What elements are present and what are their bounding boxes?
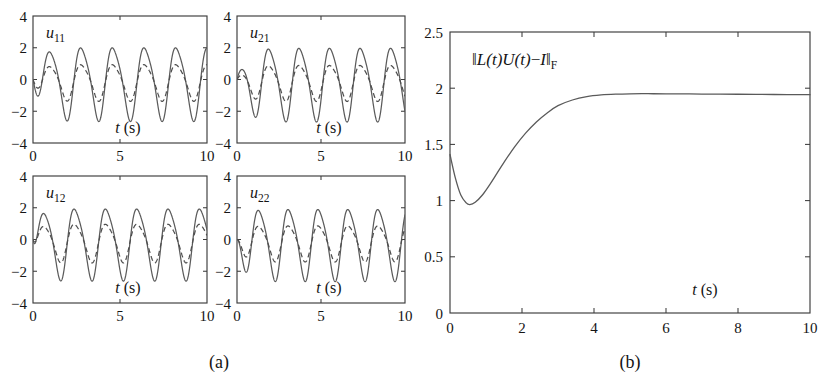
x-tick-label: 0 bbox=[29, 308, 37, 324]
x-tick-label: 8 bbox=[734, 320, 742, 336]
y-tick-label: 1 bbox=[436, 193, 444, 209]
subplot-label-base: u bbox=[46, 184, 54, 201]
norm-part-1: L bbox=[476, 50, 486, 69]
y-tick-label: 0 bbox=[224, 232, 232, 248]
subplot-label-base: u bbox=[250, 184, 258, 201]
subplot-label-subscript: 21 bbox=[258, 32, 270, 44]
norm-part-4: (t) bbox=[515, 50, 531, 69]
series-solid bbox=[237, 210, 405, 282]
subplot-u11: 0510−4−2024u11t (s) bbox=[11, 9, 214, 165]
x-axis-label: t (s) bbox=[115, 279, 140, 297]
y-tick-label: 2 bbox=[224, 40, 232, 56]
curves bbox=[237, 210, 405, 282]
x-tick-label: 0 bbox=[29, 148, 37, 164]
y-tick-label: 2 bbox=[224, 200, 232, 216]
curves bbox=[237, 48, 405, 122]
y-tick-label: 0 bbox=[436, 306, 444, 322]
subplot-u12: 0510−4−2024u12t (s) bbox=[11, 169, 214, 325]
x-tick-label: 10 bbox=[200, 308, 215, 324]
y-tick-label: 2.5 bbox=[424, 25, 443, 41]
y-tick-label: −2 bbox=[215, 104, 231, 120]
figure-svg: 0510−4−2024u11t (s)0510−4−2024u21t (s)05… bbox=[0, 0, 822, 375]
y-tick-label: 2 bbox=[436, 81, 444, 97]
series-dashed bbox=[237, 226, 405, 262]
norm-frobenius-subscript: F bbox=[551, 59, 557, 71]
x-axis-label: t (s) bbox=[316, 279, 341, 297]
subplot-label-u22: u22 bbox=[250, 184, 270, 204]
x-axis-unit: (s) bbox=[697, 281, 718, 299]
x-tick-label: 6 bbox=[662, 320, 670, 336]
subplot-label-u21: u21 bbox=[250, 24, 270, 44]
x-tick-label: 4 bbox=[590, 320, 598, 336]
y-tick-label: 4 bbox=[20, 9, 28, 25]
x-axis-unit: (s) bbox=[120, 119, 141, 137]
y-tick-label: 0 bbox=[20, 232, 28, 248]
y-tick-label: 0 bbox=[20, 72, 28, 88]
curves bbox=[33, 48, 207, 122]
y-tick-label: −4 bbox=[215, 296, 231, 312]
subplot-u21: 0510−4−2024u21t (s) bbox=[215, 9, 412, 165]
y-tick-label: −2 bbox=[11, 264, 27, 280]
series-residual-norm bbox=[450, 94, 810, 205]
subplot-label-base: u bbox=[250, 24, 258, 41]
x-tick-label: 10 bbox=[200, 148, 215, 164]
y-tick-label: 1.5 bbox=[424, 137, 443, 153]
y-tick-label: −4 bbox=[11, 296, 27, 312]
y-tick-label: −2 bbox=[11, 104, 27, 120]
curves bbox=[33, 209, 207, 281]
subplot-label-subscript: 11 bbox=[54, 32, 65, 44]
y-tick-label: 0 bbox=[224, 72, 232, 88]
x-tick-label: 10 bbox=[803, 320, 818, 336]
x-tick-label: 0 bbox=[446, 320, 454, 336]
x-axis-unit: (s) bbox=[321, 279, 342, 297]
panel-caption-a: (a) bbox=[209, 352, 229, 373]
x-tick-label: 0 bbox=[233, 308, 241, 324]
plot-frame bbox=[450, 32, 810, 313]
series-solid bbox=[33, 48, 207, 122]
x-tick-label: 5 bbox=[116, 308, 124, 324]
panel-caption-b: (b) bbox=[620, 352, 641, 373]
subplot-u22: 0510−4−2024u22t (s) bbox=[215, 169, 412, 325]
norm-annotation: ‖L(t)U(t)−I‖F bbox=[472, 50, 557, 71]
x-tick-label: 5 bbox=[317, 148, 325, 164]
y-tick-label: 4 bbox=[20, 169, 28, 185]
x-axis-label: t (s) bbox=[692, 281, 717, 299]
y-tick-label: −2 bbox=[215, 264, 231, 280]
x-axis-unit: (s) bbox=[321, 119, 342, 137]
subplot-label-subscript: 22 bbox=[258, 192, 270, 204]
x-axis-unit: (s) bbox=[120, 279, 141, 297]
y-tick-label: −4 bbox=[11, 136, 27, 152]
y-tick-label: 4 bbox=[224, 169, 232, 185]
x-axis-label: t (s) bbox=[316, 119, 341, 137]
subplot-residual-norm: 024681000.511.522.5‖L(t)U(t)−I‖Ft (s) bbox=[424, 25, 817, 337]
series-solid bbox=[33, 209, 207, 281]
y-tick-label: 2 bbox=[20, 200, 28, 216]
series-solid bbox=[237, 48, 405, 122]
x-tick-label: 2 bbox=[518, 320, 526, 336]
x-tick-label: 0 bbox=[233, 148, 241, 164]
x-tick-label: 10 bbox=[398, 148, 413, 164]
y-tick-label: 4 bbox=[224, 9, 232, 25]
figure-container: 0510−4−2024u11t (s)0510−4−2024u21t (s)05… bbox=[0, 0, 822, 375]
norm-part-2: (t) bbox=[486, 50, 502, 69]
x-tick-label: 5 bbox=[317, 308, 325, 324]
y-tick-label: 0.5 bbox=[424, 249, 443, 265]
subplot-label-subscript: 12 bbox=[54, 192, 66, 204]
x-tick-label: 10 bbox=[398, 308, 413, 324]
subplot-label-base: u bbox=[46, 24, 54, 41]
x-tick-label: 5 bbox=[116, 148, 124, 164]
subplot-label-u12: u12 bbox=[46, 184, 66, 204]
y-tick-label: 2 bbox=[20, 40, 28, 56]
norm-part-5: − bbox=[531, 50, 541, 69]
y-tick-label: −4 bbox=[215, 136, 231, 152]
x-axis-label: t (s) bbox=[115, 119, 140, 137]
subplot-label-u11: u11 bbox=[46, 24, 65, 44]
